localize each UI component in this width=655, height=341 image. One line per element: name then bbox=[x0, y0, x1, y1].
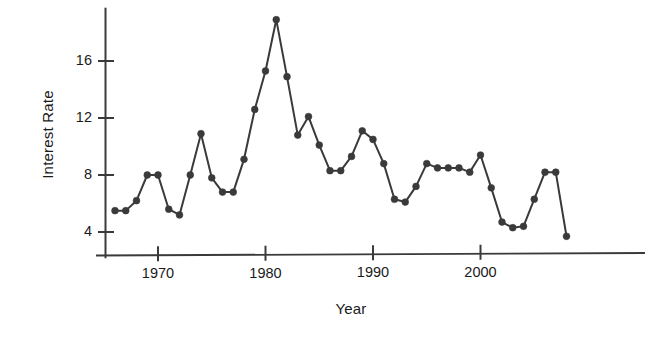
data-point-marker bbox=[499, 219, 506, 226]
data-point-marker bbox=[219, 189, 226, 196]
data-point-marker bbox=[359, 127, 366, 134]
data-point-marker bbox=[262, 68, 269, 75]
data-point-marker bbox=[187, 172, 194, 179]
interest-rate-line-chart: Interest Rate Year 481216 19701980199020… bbox=[0, 0, 655, 341]
data-point-marker bbox=[531, 196, 538, 203]
data-point-marker bbox=[241, 156, 248, 163]
data-point-marker bbox=[284, 73, 291, 80]
data-point-marker bbox=[230, 189, 237, 196]
x-tick-label: 2000 bbox=[453, 264, 509, 280]
data-point-marker bbox=[198, 130, 205, 137]
data-point-marker bbox=[413, 183, 420, 190]
data-point-marker bbox=[456, 164, 463, 171]
data-point-marker bbox=[542, 169, 549, 176]
data-point-marker bbox=[316, 142, 323, 149]
data-point-marker bbox=[488, 184, 495, 191]
data-point-marker bbox=[208, 174, 215, 181]
y-tick-label: 4 bbox=[58, 223, 92, 239]
data-point-marker bbox=[112, 207, 119, 214]
data-point-marker bbox=[251, 106, 258, 113]
data-line bbox=[115, 20, 567, 237]
data-point-marker bbox=[391, 196, 398, 203]
data-point-marker bbox=[434, 164, 441, 171]
data-point-marker bbox=[477, 152, 484, 159]
data-point-marker bbox=[520, 223, 527, 230]
y-tick-label: 16 bbox=[58, 52, 92, 68]
data-point-marker bbox=[563, 233, 570, 240]
data-point-marker bbox=[348, 153, 355, 160]
x-tick-label: 1970 bbox=[130, 265, 186, 281]
x-axis-spine bbox=[96, 253, 645, 256]
data-point-marker bbox=[423, 160, 430, 167]
y-tick-label: 12 bbox=[58, 109, 92, 125]
data-point-marker bbox=[176, 212, 183, 219]
y-axis-title: Interest Rate bbox=[39, 55, 56, 215]
axis-group bbox=[96, 8, 645, 262]
data-point-marker bbox=[294, 132, 301, 139]
data-point-marker bbox=[327, 167, 334, 174]
data-point-marker bbox=[305, 113, 312, 120]
chart-plot-area bbox=[0, 0, 655, 341]
data-series-line bbox=[115, 20, 567, 237]
data-point-marker bbox=[122, 207, 129, 214]
x-axis-title: Year bbox=[286, 300, 416, 317]
x-tick-label: 1990 bbox=[345, 264, 401, 280]
data-point-marker bbox=[509, 224, 516, 231]
data-point-marker bbox=[466, 169, 473, 176]
data-point-marker bbox=[337, 167, 344, 174]
data-point-marker bbox=[402, 199, 409, 206]
y-tick-label: 8 bbox=[58, 166, 92, 182]
data-point-markers bbox=[112, 16, 570, 239]
data-point-marker bbox=[133, 197, 140, 204]
data-point-marker bbox=[445, 164, 452, 171]
data-point-marker bbox=[370, 136, 377, 143]
x-tick-label: 1980 bbox=[238, 265, 294, 281]
data-point-marker bbox=[155, 172, 162, 179]
data-point-marker bbox=[165, 206, 172, 213]
data-point-marker bbox=[273, 16, 280, 23]
data-point-marker bbox=[144, 172, 151, 179]
data-point-marker bbox=[552, 169, 559, 176]
data-point-marker bbox=[380, 160, 387, 167]
